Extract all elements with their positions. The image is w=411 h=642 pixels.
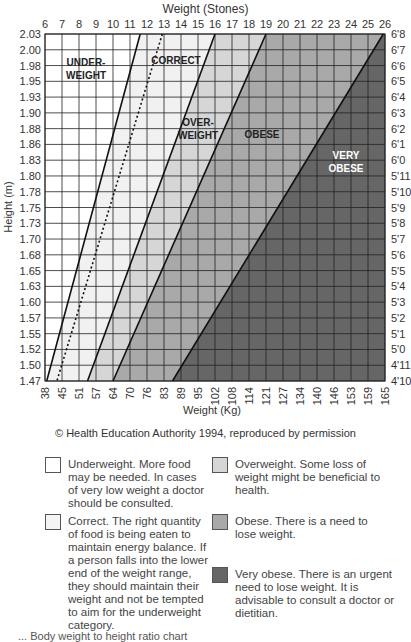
legend-text: Overweight. Some loss of weight might be… <box>235 458 392 497</box>
legend-item-very-obese: Very obese. There is an urgent need to l… <box>212 568 397 620</box>
right-tick-label: 6'4 <box>391 91 405 103</box>
top-tick-label: 10 <box>107 18 119 30</box>
left-tick-label: 1.65 <box>20 265 41 277</box>
top-tick-label: 18 <box>243 18 255 30</box>
left-tick-label: 2.00 <box>20 44 41 56</box>
zone-label-underweight: WEIGHT <box>66 70 106 81</box>
bottom-tick-label: 159 <box>362 387 374 405</box>
bottom-tick-label: 134 <box>294 387 306 405</box>
bottom-tick-label: 121 <box>260 387 272 405</box>
left-tick-label: 1.57 <box>20 312 41 324</box>
top-tick-label: 16 <box>209 18 221 30</box>
top-tick-label: 9 <box>93 18 99 30</box>
zone-label-very-obese: VERY <box>333 150 360 161</box>
right-tick-label: 6'0 <box>391 154 405 166</box>
top-tick-label: 21 <box>294 18 306 30</box>
bottom-tick-label: 165 <box>379 387 391 405</box>
right-tick-label: 5'7 <box>391 233 405 245</box>
top-tick-label: 22 <box>311 18 323 30</box>
top-tick-label: 19 <box>260 18 272 30</box>
right-tick-label: 6'5 <box>391 75 405 87</box>
right-tick-label: 5'3 <box>391 296 405 308</box>
bottom-tick-label: 108 <box>226 387 238 405</box>
top-tick-label: 17 <box>226 18 238 30</box>
bottom-tick-label: 51 <box>73 387 85 399</box>
top-tick-label: 23 <box>328 18 340 30</box>
top-tick-label: 8 <box>76 18 82 30</box>
left-tick-label: 1.68 <box>20 249 41 261</box>
bottom-tick-label: 70 <box>124 387 136 399</box>
right-tick-label: 4'11 <box>391 359 411 371</box>
zone-label-correct: CORRECT <box>151 55 200 66</box>
left-tick-label: 1.93 <box>20 91 41 103</box>
bottom-tick-label: 153 <box>345 387 357 405</box>
top-tick-label: 25 <box>362 18 374 30</box>
zone-label-overweight: OVER- <box>182 117 214 128</box>
top-tick-label: 26 <box>379 18 391 30</box>
bottom-tick-label: 114 <box>243 387 255 405</box>
bottom-tick-label: 102 <box>209 387 221 405</box>
legend-text: Underweight. More food may be needed. In… <box>68 458 205 510</box>
left-tick-label: 1.83 <box>20 154 41 166</box>
bottom-tick-label: 146 <box>328 387 340 405</box>
bottom-tick-label: 45 <box>56 387 68 399</box>
bottom-tick-label: 95 <box>192 387 204 399</box>
legend-item-underweight: Underweight. More food may be needed. In… <box>45 458 205 510</box>
bottom-tick-label: 38 <box>39 387 51 399</box>
right-tick-label: 5'10 <box>391 186 411 198</box>
right-tick-label: 6'1 <box>391 138 405 150</box>
right-tick-label: 6'8 <box>391 28 405 40</box>
right-tick-label: 5'5 <box>391 265 405 277</box>
left-tick-label: 1.88 <box>20 123 41 135</box>
top-tick-label: 15 <box>192 18 204 30</box>
bottom-tick-label: 57 <box>90 387 102 399</box>
right-tick-label: 6'3 <box>391 107 405 119</box>
legend-item-obese: Obese. There is a need to lose weight. <box>212 515 392 541</box>
right-tick-label: 5'2 <box>391 312 405 324</box>
right-tick-label: 6'2 <box>391 123 405 135</box>
left-tick-label: 1.47 <box>20 375 41 387</box>
bottom-tick-label: 127 <box>277 387 289 405</box>
right-tick-label: 6'6 <box>391 60 405 72</box>
right-tick-label: 5'9 <box>391 202 405 214</box>
figure-caption: ... Body weight to height ratio chart <box>18 630 187 642</box>
left-tick-label: 1.52 <box>20 343 41 355</box>
right-tick-label: 5'8 <box>391 217 405 229</box>
legend-text: Very obese. There is an urgent need to l… <box>235 568 397 620</box>
bottom-tick-label: 76 <box>141 387 153 399</box>
top-tick-label: 24 <box>345 18 357 30</box>
left-tick-label: 1.80 <box>20 170 41 182</box>
right-tick-label: 5'11 <box>391 170 411 182</box>
swatch-overweight <box>212 457 228 473</box>
legend-item-correct: Correct. The right quantity of food is b… <box>45 515 210 632</box>
legend-text: Correct. The right quantity of food is b… <box>68 515 210 632</box>
right-tick-label: 5'4 <box>391 280 405 292</box>
swatch-correct <box>45 514 61 530</box>
left-tick-label: 1.70 <box>20 233 41 245</box>
zone-label-obese: OBESE <box>244 129 279 140</box>
right-tick-label: 5'6 <box>391 249 405 261</box>
top-tick-label: 11 <box>124 18 135 30</box>
bmi-chart: 678910111213141516171819202122232425262.… <box>0 0 411 420</box>
right-tick-label: 5'0 <box>391 343 405 355</box>
bottom-tick-label: 140 <box>311 387 323 405</box>
right-tick-label: 5'1 <box>391 328 405 340</box>
swatch-obese <box>212 514 228 530</box>
left-tick-label: 1.90 <box>20 107 41 119</box>
right-tick-label: 4'10 <box>391 375 411 387</box>
swatch-very-obese <box>212 567 228 583</box>
left-tick-label: 1.63 <box>20 280 41 292</box>
right-tick-label: 6'7 <box>391 44 405 56</box>
left-tick-label: 1.73 <box>20 217 41 229</box>
bottom-tick-label: 64 <box>107 387 119 399</box>
left-tick-label: 1.78 <box>20 186 41 198</box>
left-tick-label: 1.60 <box>20 296 41 308</box>
zone-label-very-obese: OBESE <box>328 163 363 174</box>
legend-text: Obese. There is a need to lose weight. <box>235 515 392 541</box>
swatch-underweight <box>45 457 61 473</box>
zone-label-underweight: UNDER- <box>67 57 106 68</box>
left-tick-label: 1.55 <box>20 328 41 340</box>
top-tick-label: 20 <box>277 18 289 30</box>
top-tick-label: 6 <box>42 18 48 30</box>
left-tick-label: 1.95 <box>20 75 41 87</box>
